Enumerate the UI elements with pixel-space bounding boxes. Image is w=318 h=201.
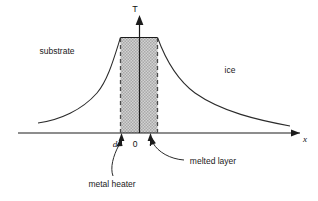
melted-layer-leader-line (153, 143, 184, 160)
t-axis-label: T (132, 4, 138, 14)
metal-heater-label: metal heater (88, 179, 135, 189)
origin-label: 0 (133, 139, 138, 149)
ice-label: ice (225, 65, 236, 75)
d-tick-arrowhead (119, 133, 125, 141)
metal-heater-leader-line (112, 145, 119, 176)
diagram-canvas: T x d 0 substrate ice metal heater melte… (0, 0, 318, 201)
melted-layer-label: melted layer (190, 156, 236, 166)
substrate-label: substrate (40, 46, 75, 56)
temperature-profile-figure: T x d 0 substrate ice metal heater melte… (0, 0, 318, 201)
x-axis-arrowhead (291, 130, 300, 137)
ice-curve (158, 38, 291, 127)
x-axis-label: x (302, 134, 307, 144)
d-label: d (113, 139, 118, 149)
t-axis-arrowhead (136, 15, 144, 25)
